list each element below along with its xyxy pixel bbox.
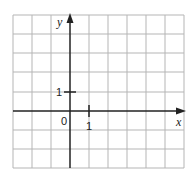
y-axis-label: y (56, 15, 63, 29)
x-axis-label: x (175, 115, 182, 129)
x-tick-label: 1 (86, 120, 92, 132)
origin-label: 0 (61, 115, 67, 127)
coordinate-grid: y x 0 1 1 (0, 0, 193, 175)
grid-lines (13, 15, 184, 168)
y-tick-label: 1 (56, 86, 62, 98)
x-axis (13, 108, 186, 115)
y-axis (67, 13, 74, 168)
